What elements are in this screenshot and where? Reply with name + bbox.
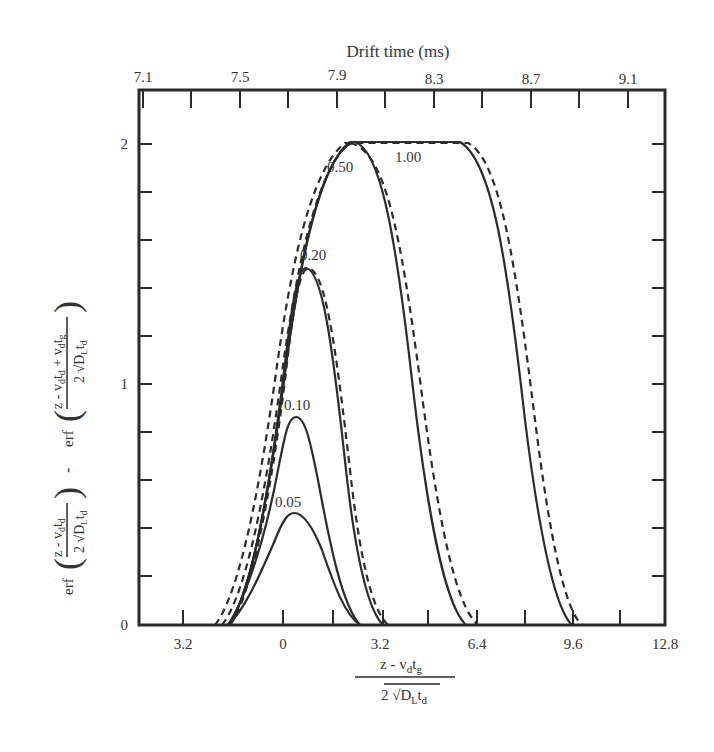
chart: Drift time (ms) 7.1 7.5 7.9 8.3 8.7 9.1: [0, 0, 714, 752]
y-tick-label: 2: [121, 136, 129, 152]
plot-frame: [139, 90, 665, 625]
svg-text:erf: erf: [60, 430, 76, 447]
svg-text:erf: erf: [60, 578, 76, 595]
top-axis-title: Drift time (ms): [347, 42, 450, 61]
top-tick-label: 7.1: [134, 69, 153, 85]
svg-text:): ): [47, 301, 87, 313]
curve-0.50: [228, 142, 466, 625]
svg-text:(: (: [47, 558, 87, 570]
svg-text:2 √DLtd: 2 √DLtd: [381, 687, 428, 706]
x-tick-label: 3.2: [174, 636, 193, 652]
top-tick-label: 8.7: [522, 71, 541, 87]
y-tick-labels: 0 1 2: [121, 136, 129, 633]
solid-curves: [228, 142, 572, 625]
curve-0.10: [228, 417, 360, 625]
x-tick-label: 12.8: [652, 636, 678, 652]
svg-text:z - vdtd: z - vdtd: [50, 518, 67, 557]
y-axis-label: erf ( z - vdtd 2 √DLtd ) - erf ( z - vdt…: [47, 301, 89, 595]
x-tick-label: 3.2: [371, 636, 390, 652]
svg-text:-: -: [59, 468, 76, 473]
top-tick-label: 8.3: [425, 71, 444, 87]
curve-label-0.20: 0.20: [300, 247, 326, 263]
svg-text:): ): [47, 487, 87, 499]
y-tick-label: 0: [121, 617, 129, 633]
svg-text:(: (: [47, 410, 87, 422]
curve-0.20-dashed: [230, 268, 388, 625]
x-tick-label: 9.6: [564, 636, 583, 652]
top-tick-label: 7.9: [328, 67, 347, 83]
curve-label-0.10: 0.10: [284, 397, 310, 413]
curve-labels: 0.50 1.00 0.20 0.10 0.05: [275, 149, 421, 510]
left-ticks: [139, 144, 152, 576]
top-tick-labels: 7.1 7.5 7.9 8.3 8.7 9.1: [134, 67, 638, 87]
svg-text:2 √DLtd: 2 √DLtd: [72, 340, 89, 383]
svg-text:z - vdtd + vdtg: z - vdtd + vdtg: [50, 334, 67, 409]
x-tick-label: 6.4: [468, 636, 487, 652]
top-tick-label: 9.1: [619, 71, 638, 87]
y-tick-label: 1: [121, 376, 129, 392]
curve-1.00: [228, 142, 572, 625]
svg-text:2 √DLtd: 2 √DLtd: [72, 510, 89, 553]
x-axis-label: z - vdtg 2 √DLtd: [355, 656, 455, 706]
svg-text:z - vdtg: z - vdtg: [380, 656, 422, 675]
curve-label-0.50: 0.50: [327, 159, 353, 175]
right-ticks: [652, 144, 665, 576]
curve-label-0.05: 0.05: [275, 494, 301, 510]
curve-label-1.00: 1.00: [395, 149, 421, 165]
top-tick-label: 7.5: [231, 69, 250, 85]
bottom-ticks: [183, 610, 620, 625]
top-ticks: [143, 91, 628, 108]
x-tick-label: 0: [279, 636, 287, 652]
x-tick-labels: 3.2 0 3.2 6.4 9.6 12.8: [174, 636, 679, 652]
